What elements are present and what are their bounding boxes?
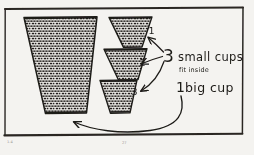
annotation-line-1: small cups xyxy=(178,50,243,64)
margin-marks: 1.4 27 xyxy=(7,140,127,145)
annotation-numeral-1: 1 xyxy=(176,79,185,95)
small-cup-1 xyxy=(109,17,152,48)
big-cup xyxy=(24,17,97,114)
count-numeral: 3 xyxy=(163,46,174,66)
cup-number-3: 3 xyxy=(132,86,138,97)
diagram-canvas: 1 2 3 3 small cups fit inside 1 big cup … xyxy=(0,0,254,155)
cup-number-1: 1 xyxy=(149,25,155,36)
margin-mark-center: 27 xyxy=(122,141,127,145)
diagram-sheet: 1 2 3 3 small cups fit inside 1 big cup … xyxy=(0,0,254,155)
margin-mark-left: 1.4 xyxy=(7,140,13,144)
annotation-line-2: fit inside xyxy=(179,66,209,74)
annotation-line-3: big cup xyxy=(185,80,234,95)
